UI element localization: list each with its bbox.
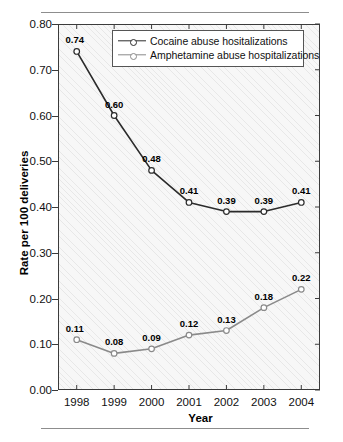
point-value-label: 0.39	[217, 195, 236, 206]
point-value-label: 0.22	[292, 272, 311, 283]
y-axis-tick-label: 0.70	[6, 64, 52, 76]
point-value-label: 0.48	[142, 153, 161, 164]
point-value-label: 0.39	[255, 195, 274, 206]
y-axis-tick-mark	[52, 207, 58, 208]
line-chart: 0.000.100.200.300.400.500.600.700.80 199…	[0, 0, 343, 442]
plot-hatch-texture	[59, 25, 319, 389]
legend-item-amphetamine: Amphetamine abuse hospitalizations	[118, 48, 298, 62]
point-value-label: 0.41	[292, 185, 311, 196]
point-value-label: 0.09	[142, 332, 161, 343]
point-value-label: 0.74	[65, 34, 84, 45]
y-axis-tick-mark	[52, 390, 58, 391]
y-axis-tick-mark	[52, 253, 58, 254]
y-axis-tick-mark	[52, 116, 58, 117]
legend-label-amphetamine: Amphetamine abuse hospitalizations	[150, 49, 319, 61]
point-value-label: 0.12	[180, 318, 199, 329]
y-axis-title: Rate per 100 deliveries	[18, 103, 30, 323]
legend-label-cocaine: Cocaine abuse hositalizations	[150, 35, 287, 47]
y-axis-tick-label: 0.00	[6, 384, 52, 396]
point-value-label: 0.08	[105, 336, 124, 347]
legend-line-marker-icon	[118, 35, 146, 47]
y-axis-tick-mark	[52, 344, 58, 345]
x-axis-tick-label: 2004	[279, 396, 323, 408]
y-axis-tick-mark	[52, 24, 58, 25]
y-axis-tick-label: 0.10	[6, 338, 52, 350]
y-axis-tick-label: 0.80	[6, 18, 52, 30]
point-value-label: 0.60	[105, 99, 124, 110]
chart-legend: Cocaine abuse hositalizations Amphetamin…	[112, 30, 304, 67]
x-axis-title: Year	[0, 412, 343, 424]
y-axis-tick-mark	[52, 299, 58, 300]
point-value-label: 0.11	[66, 323, 84, 334]
y-axis-tick-mark	[52, 161, 58, 162]
plot-area	[58, 24, 320, 390]
point-value-label: 0.13	[217, 314, 236, 325]
legend-item-cocaine: Cocaine abuse hositalizations	[118, 34, 298, 48]
legend-line-marker-icon	[118, 49, 146, 61]
point-value-label: 0.18	[255, 291, 274, 302]
y-axis-tick-mark	[52, 70, 58, 71]
point-value-label: 0.41	[180, 185, 199, 196]
